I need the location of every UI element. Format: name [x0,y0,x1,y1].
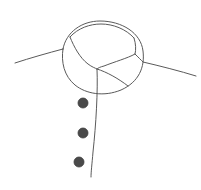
drawing-canvas [0,0,201,190]
button-middle [78,128,88,138]
background-rect [0,0,201,190]
button-top [78,98,88,108]
shirt-collar-illustration [0,0,201,190]
button-bottom [74,157,84,167]
